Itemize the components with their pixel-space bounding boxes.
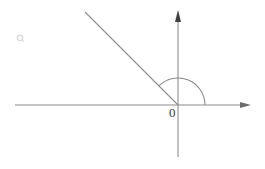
diagram-canvas bbox=[0, 0, 265, 169]
angle-ray-line bbox=[85, 12, 178, 105]
origin-label: 0 bbox=[169, 106, 176, 119]
angle-arc bbox=[159, 78, 205, 105]
x-axis-arrow-icon bbox=[240, 102, 251, 108]
y-axis-arrow-icon bbox=[175, 10, 181, 22]
angle-diagram-figure: 0 bbox=[0, 0, 265, 169]
faint-artifact-mark bbox=[17, 35, 23, 41]
